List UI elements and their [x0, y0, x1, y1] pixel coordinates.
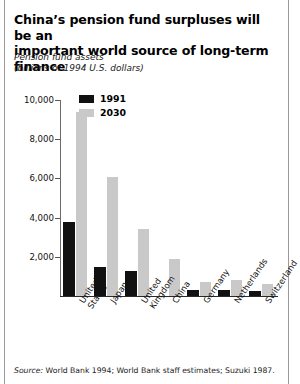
legend-item: 1991	[79, 93, 126, 105]
axis-unit-caption: Pension fund assets (billions of 1994 U.…	[14, 52, 254, 74]
legend-label: 1991	[100, 94, 126, 103]
bar-chart-plot: 2,0004,0006,0008,00010,000	[14, 92, 280, 302]
bar-group	[187, 92, 218, 296]
bar-2030	[76, 112, 88, 296]
y-axis-tick-label: 8,000	[29, 134, 54, 144]
axis-unit-caption-line1: Pension fund assets	[14, 52, 254, 63]
legend-item: 2030	[79, 107, 126, 119]
bar-group	[218, 92, 249, 296]
bar-group	[63, 92, 94, 296]
source-text: World Bank 1994; World Bank staff estima…	[43, 366, 275, 375]
source-label: Source:	[14, 366, 43, 375]
y-axis-tick-label: 2,000	[29, 252, 54, 262]
y-axis-tick-label: 6,000	[29, 173, 54, 183]
bar-series-area	[61, 92, 278, 296]
y-axis-tick-label: 10,000	[24, 95, 54, 105]
bar-group	[94, 92, 125, 296]
left-rule	[4, 0, 5, 384]
source-note: Source: World Bank 1994; World Bank staf…	[14, 366, 280, 375]
figure-title-line1: China’s pension fund surpluses will be a…	[14, 12, 260, 43]
chart-legend: 19912030	[79, 93, 126, 121]
bar-group	[156, 92, 187, 296]
legend-label: 2030	[100, 108, 126, 117]
axis-unit-caption-line2: (billions of 1994 U.S. dollars)	[14, 63, 254, 74]
y-axis: 2,0004,0006,0008,00010,000	[14, 92, 62, 298]
y-axis-tick-label: 4,000	[29, 213, 54, 223]
figure-panel: China’s pension fund surpluses will be a…	[0, 0, 300, 384]
bar-group	[125, 92, 156, 296]
right-rule	[288, 0, 289, 384]
legend-swatch	[79, 109, 94, 117]
legend-swatch	[79, 95, 94, 103]
x-axis-category-labels: United StatesJapanUnited KingdomChinaGer…	[61, 300, 278, 362]
bar-2030	[107, 177, 119, 296]
bar-1991	[63, 222, 75, 296]
